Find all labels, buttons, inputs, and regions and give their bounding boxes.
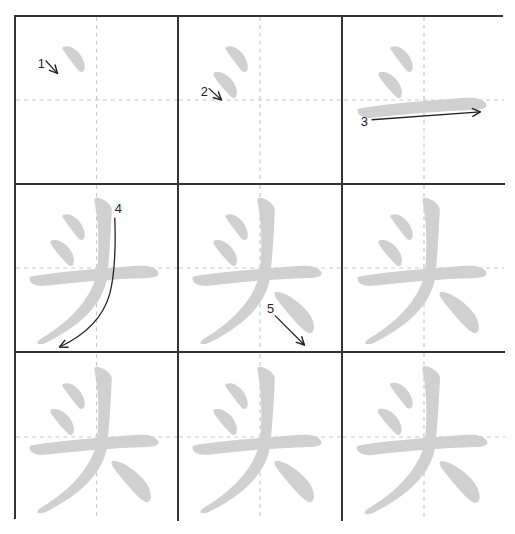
stroke-right-falling-dot <box>275 292 314 333</box>
stroke-dot-lower <box>50 409 73 435</box>
stroke-dot-upper <box>390 46 412 72</box>
stroke-cell-2: 2 <box>179 17 343 185</box>
cell-canvas: 4 <box>16 185 177 351</box>
cell-canvas: 2 <box>179 17 341 183</box>
stroke-dot-upper <box>225 383 247 409</box>
stroke-order-grid: 1 2 3 <box>14 15 503 519</box>
stroke-dot-upper <box>390 383 413 409</box>
stroke-cell-5: 5 <box>179 185 343 353</box>
stroke-cell-1: 1 <box>16 17 179 185</box>
stroke-cell-8 <box>179 353 343 521</box>
cell-canvas <box>179 353 341 521</box>
stroke-dot-lower <box>213 409 236 435</box>
cell-canvas: 5 <box>179 185 341 351</box>
cell-canvas <box>343 353 505 521</box>
stroke-dot-upper <box>62 214 84 240</box>
cell-canvas <box>16 353 177 521</box>
stroke-dot-upper <box>225 214 247 240</box>
cell-canvas: 3 <box>343 17 505 183</box>
stroke-number-label: 3 <box>361 114 368 129</box>
stroke-cell-3: 3 <box>343 17 505 185</box>
stroke-dot-lower <box>50 240 73 266</box>
stroke-cell-4: 4 <box>16 185 179 353</box>
stroke-dot-lower <box>213 72 236 98</box>
stroke-right-falling-dot <box>440 461 480 503</box>
stroke-horizontal <box>357 98 486 118</box>
stroke-dot-upper <box>62 383 84 409</box>
stroke-right-falling-dot <box>111 461 150 502</box>
stroke-right-falling-dot <box>275 461 314 502</box>
stroke-right-falling-dot <box>439 292 478 334</box>
stroke-dot-upper <box>225 46 247 72</box>
stroke-cell-9 <box>343 353 505 521</box>
stroke-direction-arrow <box>46 60 58 73</box>
cell-canvas: 1 <box>16 17 177 183</box>
stroke-direction-arrow <box>209 88 222 100</box>
stroke-number-label: 4 <box>115 201 122 216</box>
stroke-dot-lower <box>378 72 401 98</box>
stroke-dot-upper <box>62 46 84 72</box>
stroke-dot-lower <box>378 409 402 435</box>
stroke-cell-7 <box>16 353 179 521</box>
stroke-cell-6 <box>343 185 505 353</box>
stroke-dot-lower <box>213 240 236 266</box>
stroke-dot-lower <box>378 240 401 266</box>
stroke-number-label: 1 <box>38 56 45 71</box>
stroke-number-label: 2 <box>201 84 208 99</box>
stroke-dot-upper <box>390 214 412 240</box>
stroke-number-label: 5 <box>267 301 274 316</box>
cell-canvas <box>343 185 505 351</box>
